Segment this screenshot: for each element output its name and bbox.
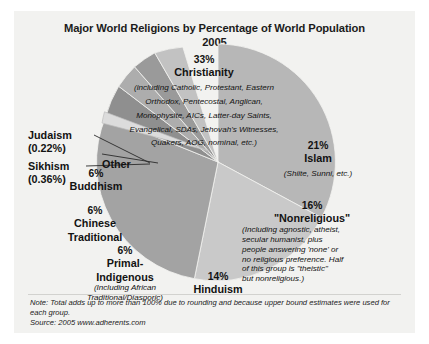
footnote-note: Note: Total adds up to more than 100% du… (30, 298, 390, 317)
nonreligious-name: "Nonreligious" (274, 212, 350, 224)
christianity-note-4: Evangelical, SDAs, Jehovah's Witnesses, (129, 125, 278, 134)
islam-note: (Shiite, Sunni, etc.) (284, 169, 352, 178)
sikhism-name: Sikhism (28, 160, 69, 172)
nonreligious-note-4: no religious preference. Half (228, 255, 396, 265)
footnote-divider (28, 294, 401, 295)
primal-note-1: (Including African (58, 283, 192, 293)
chart-card: Major World Religions by Percentage of W… (14, 11, 415, 333)
slice-label-christianity: 33% Christianity (including Catholic, Pr… (98, 52, 310, 148)
islam-percent: 21% (308, 140, 329, 151)
nonreligious-note-2: secular humanist, plus (228, 235, 396, 245)
primal-name-2: Indigenous (96, 271, 154, 283)
hinduism-percent: 14% (208, 271, 229, 282)
primal-percent: 6% (118, 245, 133, 256)
slice-label-islam: 21% Islam (Shiite, Sunni, etc.) (246, 138, 390, 179)
islam-name: Islam (304, 152, 332, 164)
callout-label-judaism: Judaism (0.22%) (28, 128, 102, 155)
nonreligious-note-1: (Including agnostic, atheist, (228, 225, 396, 235)
callout-label-sikhism: Sikhism (0.36%) (28, 159, 102, 186)
chinese-percent: 6% (88, 205, 103, 216)
judaism-percent: (0.22%) (28, 142, 66, 154)
chinese-name-2: Traditional (68, 231, 123, 243)
sikhism-percent: (0.36%) (28, 173, 66, 185)
christianity-note-5: Quakers, AOG, nominal, etc.) (151, 138, 257, 147)
chart-footnote: Note: Total adds up to more than 100% du… (30, 298, 402, 329)
chinese-name-1: Chinese (74, 217, 116, 229)
slice-label-chinese-traditional: 6% Chinese Traditional (42, 203, 148, 243)
other-name: Other (102, 158, 131, 170)
christianity-note-1: (including Catholic, Protestant, Eastern (134, 83, 274, 92)
christianity-name: Christianity (174, 66, 233, 78)
christianity-percent: 33% (194, 54, 215, 65)
nonreligious-note-3: people answering 'none' or (228, 245, 396, 255)
primal-name-1: Primal- (107, 257, 144, 269)
slice-label-other: Other (102, 157, 164, 170)
footnote-source: Source: 2005 www.adherents.com (30, 318, 402, 328)
christianity-note-2: Orthodox, Pentecostal, Anglican, (145, 97, 263, 106)
nonreligious-percent: 16% (302, 200, 323, 211)
christianity-note-3: Monophysite, AICs, Latter-day Saints, (136, 111, 271, 120)
judaism-name: Judaism (28, 129, 72, 141)
